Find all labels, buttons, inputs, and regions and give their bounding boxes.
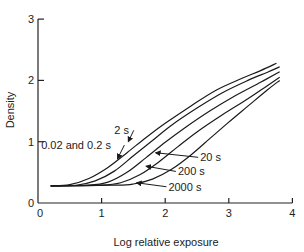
y-tick-label: 0 — [28, 197, 34, 209]
annotation-label: 0.02 and 0.2 s — [41, 139, 111, 151]
curves — [51, 63, 280, 186]
y-tick-label: 1 — [28, 136, 34, 148]
x-tick-label: 0 — [37, 207, 43, 219]
annotation-arrow — [156, 153, 199, 158]
annotation-label: 200 s — [178, 165, 205, 177]
annotation-label: 2000 s — [168, 181, 202, 193]
curve-2-s — [51, 67, 280, 186]
y-tick-label: 3 — [28, 13, 34, 25]
x-tick-label: 2 — [162, 207, 168, 219]
x-tick-label: 4 — [289, 207, 295, 219]
annotation-label: 2 s — [114, 124, 129, 136]
annotation-label: 20 s — [200, 151, 221, 163]
annotation-arrow — [128, 130, 133, 141]
x-tick-label: 3 — [226, 207, 232, 219]
annotations: 2 s0.02 and 0.2 s20 s200 s2000 s — [41, 124, 221, 192]
y-tick-label: 2 — [28, 74, 34, 86]
x-tick-label: 1 — [99, 207, 105, 219]
ticks: 012340123 — [28, 13, 296, 219]
curve-0-02-and-0-2-s — [51, 63, 277, 186]
curve-20-s — [51, 72, 280, 186]
x-axis-label: Log relative exposure — [113, 236, 218, 248]
chart: 012340123 2 s0.02 and 0.2 s20 s200 s2000… — [0, 0, 304, 252]
y-axis-label: Density — [4, 91, 16, 128]
annotation-arrow — [137, 183, 167, 187]
axes — [38, 19, 292, 203]
annotation-arrow — [118, 145, 125, 159]
